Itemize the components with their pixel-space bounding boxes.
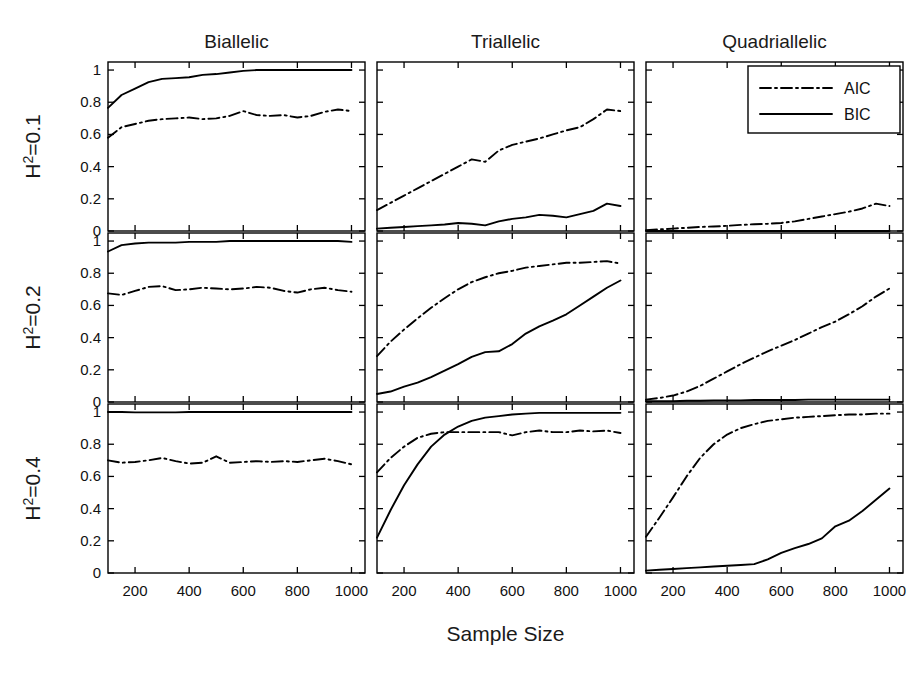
panel-axes-box — [646, 233, 903, 402]
x-tick-label: 800 — [823, 582, 848, 599]
y-tick-label: 0.6 — [80, 125, 101, 142]
panel-r2-c2: 2004006008001000 — [646, 404, 906, 599]
series-bic-r0-c1 — [377, 204, 620, 229]
x-tick-label: 800 — [554, 582, 579, 599]
panel-axes-box — [108, 62, 365, 231]
series-aic-r0-c1 — [377, 109, 620, 210]
x-tick-label: 400 — [715, 582, 740, 599]
series-aic-r1-c2 — [646, 289, 889, 400]
panel-axes-box — [108, 233, 365, 402]
y-tick-label: 0 — [93, 564, 101, 581]
panel-axes-box — [646, 404, 903, 573]
y-tick-label: 0.2 — [80, 190, 101, 207]
series-bic-r1-c2 — [646, 400, 889, 402]
y-tick-label: 0.4 — [80, 500, 101, 517]
panel-r1-c1 — [377, 233, 634, 402]
y-tick-label: 0.2 — [80, 361, 101, 378]
row-label-0.4: H2=0.4 — [20, 456, 44, 521]
y-tick-label: 1 — [93, 61, 101, 78]
panel-r2-c1: 2004006008001000 — [377, 404, 637, 599]
row-label-text: H2=0.4 — [20, 456, 44, 521]
x-tick-label: 1000 — [873, 582, 906, 599]
series-aic-r2-c0 — [108, 456, 351, 464]
y-tick-label: 0.8 — [80, 435, 101, 452]
column-title-biallelic: Biallelic — [204, 31, 268, 52]
legend: AICBIC — [748, 66, 900, 133]
figure-container: BiallelicTriallelicQuadriallelicH2=0.1H2… — [0, 0, 918, 673]
series-bic-r1-c1 — [377, 280, 620, 393]
x-tick-label: 400 — [446, 582, 471, 599]
y-tick-label: 0.4 — [80, 158, 101, 175]
series-aic-r0-c0 — [108, 109, 351, 137]
x-tick-label: 200 — [123, 582, 148, 599]
x-tick-label: 400 — [177, 582, 202, 599]
row-label-0.1: H2=0.1 — [20, 114, 44, 178]
series-aic-r2-c1 — [377, 431, 620, 473]
x-tick-label: 200 — [392, 582, 417, 599]
series-aic-r1-c0 — [108, 286, 351, 295]
y-tick-label: 1 — [93, 403, 101, 420]
x-tick-label: 800 — [285, 582, 310, 599]
x-tick-label: 600 — [231, 582, 256, 599]
series-bic-r0-c0 — [108, 70, 351, 108]
y-tick-label: 0.4 — [80, 329, 101, 346]
panel-r1-c2 — [646, 233, 903, 402]
x-tick-label: 1000 — [335, 582, 368, 599]
x-tick-label: 1000 — [604, 582, 637, 599]
panel-axes-box — [377, 233, 634, 402]
y-tick-label: 0.2 — [80, 532, 101, 549]
y-tick-label: 0.6 — [80, 467, 101, 484]
panel-r1-c0: 00.20.40.60.81 — [80, 232, 365, 410]
panel-axes-box — [377, 62, 634, 231]
x-tick-label: 200 — [661, 582, 686, 599]
legend-label-aic: AIC — [844, 80, 871, 97]
column-title-triallelic: Triallelic — [471, 31, 540, 52]
row-label-text: H2=0.2 — [20, 285, 44, 349]
series-aic-r0-c2 — [646, 204, 889, 231]
column-title-quadriallelic: Quadriallelic — [722, 31, 827, 52]
panel-r0-c1 — [377, 62, 634, 231]
x-axis-label: Sample Size — [447, 622, 565, 645]
y-tick-label: 0.8 — [80, 93, 101, 110]
panel-r2-c0: 00.20.40.60.812004006008001000 — [80, 403, 368, 599]
panel-axes-box — [377, 404, 634, 573]
row-label-text: H2=0.1 — [20, 114, 44, 178]
panel-axes-box — [108, 404, 365, 573]
legend-box — [748, 66, 900, 133]
y-tick-label: 1 — [93, 232, 101, 249]
legend-label-bic: BIC — [844, 106, 871, 123]
y-tick-label: 0.6 — [80, 296, 101, 313]
series-bic-r2-c2 — [646, 489, 889, 571]
series-aic-r1-c1 — [377, 261, 620, 356]
multi-panel-line-chart: BiallelicTriallelicQuadriallelicH2=0.1H2… — [0, 0, 918, 673]
y-tick-label: 0.8 — [80, 264, 101, 281]
panel-r0-c0: 00.20.40.60.81 — [80, 61, 365, 239]
series-bic-r1-c0 — [108, 241, 351, 251]
row-label-0.2: H2=0.2 — [20, 285, 44, 349]
x-tick-label: 600 — [769, 582, 794, 599]
x-tick-label: 600 — [500, 582, 525, 599]
